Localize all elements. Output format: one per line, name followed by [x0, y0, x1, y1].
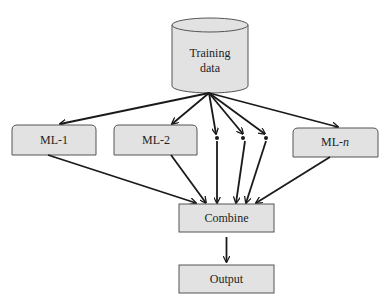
- model-ml-2: ML-2: [114, 125, 197, 155]
- model-ml-2-label: ML-2: [142, 133, 170, 147]
- ellipsis-dot: [264, 136, 268, 140]
- arrow-data-to-mln: [209, 93, 338, 127]
- ellipsis-dots: [215, 136, 268, 140]
- training-data-label-line1: Training: [190, 46, 231, 60]
- arrow-ml1-to-combine: [48, 155, 196, 203]
- model-ml-n: ML-n: [293, 128, 378, 157]
- model-ml-1-label: ML-1: [40, 133, 68, 147]
- arrow-mln-to-combine: [256, 157, 330, 203]
- model-ml-n-label: ML-n: [321, 135, 349, 149]
- training-data-label-line2: data: [200, 61, 221, 75]
- model-ml-1: ML-1: [12, 125, 96, 155]
- combine-label: Combine: [205, 211, 249, 225]
- arrow-data-to-ml1: [60, 93, 209, 124]
- output-label: Output: [210, 272, 244, 286]
- arrow-dot3-to-combine: [246, 141, 266, 203]
- arrow-dot2-to-combine: [236, 141, 245, 203]
- ensemble-diagram: Training data ML-1 ML-2 ML-n: [0, 0, 389, 305]
- ellipsis-dot: [241, 136, 245, 140]
- output-box: Output: [179, 265, 274, 293]
- ellipsis-dot: [215, 136, 219, 140]
- combine-box: Combine: [179, 204, 274, 232]
- training-data-cylinder: Training data: [172, 18, 248, 93]
